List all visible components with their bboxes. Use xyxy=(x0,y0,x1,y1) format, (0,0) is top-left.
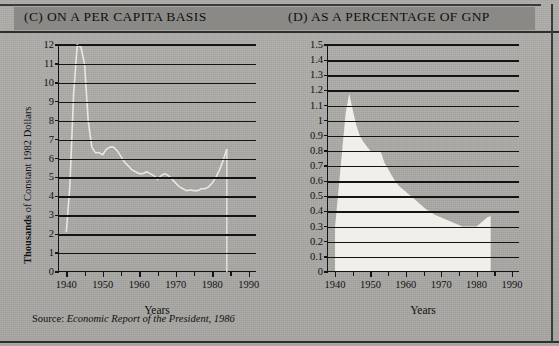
plot-area-percent-of-gnp: 1.51.41.31.21.110.90.80.70.60.50.40.30.2… xyxy=(327,44,519,272)
y-axis-tick-label: 1.5 xyxy=(310,40,323,51)
x-axis-minor-tick xyxy=(494,272,495,276)
x-axis-tick xyxy=(370,272,371,277)
gridline xyxy=(59,234,256,235)
y-axis-tick xyxy=(55,252,59,253)
x-axis-tick-label: 1990 xyxy=(238,279,259,290)
gridline xyxy=(328,90,519,91)
gridline xyxy=(328,60,519,61)
y-axis-tick-label: 8 xyxy=(49,115,54,126)
x-axis-minor-tick xyxy=(121,272,122,276)
source-note: Source: Economic Report of the President… xyxy=(32,313,235,324)
x-axis-minor-tick xyxy=(459,272,460,276)
x-axis-minor-tick xyxy=(424,272,425,276)
y-axis-tick xyxy=(324,271,328,272)
y-axis-tick xyxy=(324,105,328,106)
gridline xyxy=(59,177,256,178)
y-axis-tick xyxy=(55,177,59,178)
x-axis-tick-label: 1940 xyxy=(325,279,346,290)
y-axis-tick xyxy=(55,139,59,140)
y-axis-tick xyxy=(324,165,328,166)
y-axis-tick xyxy=(55,44,59,45)
x-axis-tick-label: 1960 xyxy=(129,279,150,290)
gridline xyxy=(59,102,256,103)
gridline xyxy=(59,45,256,46)
y-axis-tick xyxy=(324,181,328,182)
gridline xyxy=(328,136,519,137)
y-axis-tick-label: 0.3 xyxy=(310,221,323,232)
gridline xyxy=(59,64,256,65)
gridline xyxy=(328,196,519,197)
y-axis-tick-label: 0.9 xyxy=(310,131,323,142)
x-axis-minor-tick xyxy=(158,272,159,276)
y-axis-tick-label: 1.1 xyxy=(310,100,323,111)
x-axis-tick xyxy=(406,272,407,277)
y-axis-tick-label: 7 xyxy=(49,134,54,145)
y-axis-tick-label: 6 xyxy=(49,153,54,164)
gridline xyxy=(328,211,519,212)
x-axis-tick xyxy=(477,272,478,277)
gridline xyxy=(328,242,519,243)
y-axis-tick xyxy=(324,196,328,197)
y-axis-tick-label: 1 xyxy=(49,248,54,259)
gridline xyxy=(328,151,519,152)
y-axis-tick xyxy=(324,256,328,257)
y-axis-tick xyxy=(55,101,59,102)
y-axis-tick-label: 12 xyxy=(44,40,55,51)
y-axis-tick-label: 4 xyxy=(49,191,54,202)
x-axis-tick-label: 1940 xyxy=(56,279,77,290)
x-axis-minor-tick xyxy=(353,272,354,276)
y-axis-tick xyxy=(55,271,59,272)
x-axis-tick-label: 1970 xyxy=(165,279,186,290)
gridline xyxy=(59,140,256,141)
x-axis-tick xyxy=(249,272,250,277)
x-axis-tick xyxy=(335,272,336,277)
y-axis-title-left: Thousands of Constant 1982 Dollars xyxy=(22,106,33,264)
y-axis-tick xyxy=(324,90,328,91)
gridline xyxy=(328,257,519,258)
x-axis-tick-label: 1950 xyxy=(92,279,113,290)
gridline xyxy=(328,181,519,182)
gridline xyxy=(59,215,256,216)
y-axis-tick-label: 0.6 xyxy=(310,176,323,187)
y-axis-tick-label: 0.8 xyxy=(310,146,323,157)
gridline xyxy=(328,75,519,76)
y-axis-tick-label: 0.7 xyxy=(310,161,323,172)
y-axis-tick xyxy=(324,241,328,242)
x-axis-minor-tick xyxy=(194,272,195,276)
x-axis-tick xyxy=(512,272,513,277)
x-axis-tick-label: 1950 xyxy=(360,279,381,290)
gridline xyxy=(328,227,519,228)
x-axis-minor-tick xyxy=(230,272,231,276)
y-axis-tick-label: 3 xyxy=(49,210,54,221)
y-axis-tick-label: 1.4 xyxy=(310,55,323,66)
y-axis-tick-label: 0.5 xyxy=(310,191,323,202)
x-axis-tick xyxy=(139,272,140,277)
gridline xyxy=(328,106,519,107)
x-axis-tick xyxy=(441,272,442,277)
series-percent-of-gnp xyxy=(328,45,520,273)
y-axis-tick-label: 0 xyxy=(318,267,323,278)
y-axis-tick xyxy=(55,215,59,216)
y-axis-title-left-bold: Thousands xyxy=(22,215,33,264)
y-axis-title-left-rest: of Constant 1982 Dollars xyxy=(22,106,33,215)
y-axis-tick xyxy=(324,44,328,45)
x-axis-tick-label: 1980 xyxy=(466,279,487,290)
x-axis-tick-label: 1970 xyxy=(431,279,452,290)
bottom-rule xyxy=(0,341,559,343)
y-axis-tick-label: 0.4 xyxy=(310,206,323,217)
source-label: Source: xyxy=(32,313,64,324)
y-axis-tick-label: 9 xyxy=(49,97,54,108)
y-axis-tick-label: 11 xyxy=(44,59,54,70)
x-axis-tick-label: 1990 xyxy=(501,279,522,290)
gridline xyxy=(59,159,256,160)
panel-d-title: (D) AS A PERCENTAGE OF GNP xyxy=(288,9,490,25)
top-rule xyxy=(0,4,541,6)
y-axis-tick-label: 1.2 xyxy=(310,85,323,96)
y-axis-tick xyxy=(324,135,328,136)
y-axis-tick xyxy=(324,150,328,151)
y-axis-tick-label: 0.1 xyxy=(310,252,323,263)
plot-area-per-capita: 1211109876543210194019501960197019801990 xyxy=(58,44,256,272)
gridline xyxy=(59,121,256,122)
header-underline-rule xyxy=(0,31,559,33)
y-axis-tick xyxy=(55,120,59,121)
